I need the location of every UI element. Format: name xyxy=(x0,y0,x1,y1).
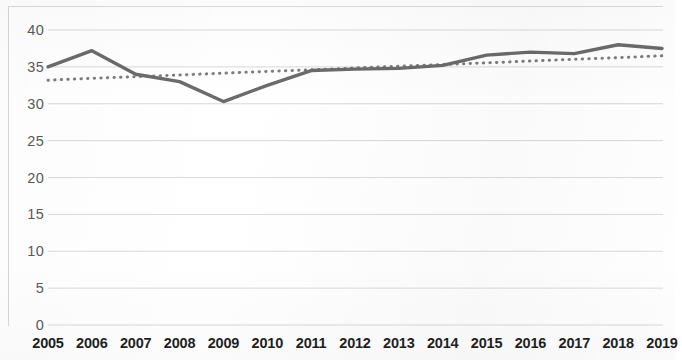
y-axis-tick-label: 25 xyxy=(0,134,44,149)
y-axis-tick-label: 40 xyxy=(0,23,44,38)
data-series-line-path xyxy=(48,45,662,102)
x-axis-tick-label: 2008 xyxy=(157,336,203,351)
y-axis-tick-label: 15 xyxy=(0,207,44,222)
x-axis-tick-label: 2015 xyxy=(464,336,510,351)
x-axis-tick-label: 2018 xyxy=(595,336,641,351)
x-axis-tick-label: 2014 xyxy=(420,336,466,351)
y-axis-tick-label: 20 xyxy=(0,171,44,186)
x-axis-tick-label: 2007 xyxy=(113,336,159,351)
x-axis-tick-label: 2016 xyxy=(507,336,553,351)
x-axis-tick-label: 2009 xyxy=(200,336,246,351)
x-axis-tick-label: 2017 xyxy=(551,336,597,351)
y-axis-tick-label: 35 xyxy=(0,60,44,75)
y-axis-tick-label: 0 xyxy=(0,318,44,333)
x-axis-tick-label: 2019 xyxy=(639,336,682,351)
x-axis-tick-label: 2012 xyxy=(332,336,378,351)
y-axis-tick-label: 10 xyxy=(0,244,44,259)
x-axis-tick-label: 2011 xyxy=(288,336,334,351)
x-axis-tick-label: 2010 xyxy=(244,336,290,351)
x-axis-tick-label: 2006 xyxy=(69,336,115,351)
x-axis-tick-label: 2013 xyxy=(376,336,422,351)
y-axis-tick-label: 30 xyxy=(0,97,44,112)
x-axis-tick-label: 2005 xyxy=(25,336,71,351)
y-axis-tick-label: 5 xyxy=(0,281,44,296)
